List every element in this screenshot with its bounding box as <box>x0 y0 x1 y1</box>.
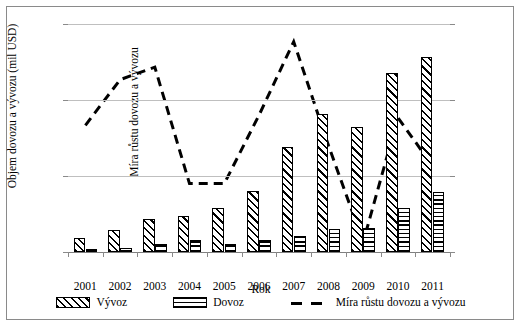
bar-import <box>225 244 237 252</box>
y-axis-right-tick <box>450 24 455 25</box>
legend-item-export: Vývoz <box>56 296 127 308</box>
bar-import <box>363 228 375 252</box>
chart-legend: Vývoz Dovoz Míra růstu dovozu a vývozu <box>0 296 522 308</box>
x-axis-tick <box>381 252 382 257</box>
x-axis-tick <box>276 252 277 257</box>
y-axis-left-tick <box>63 100 68 101</box>
bar-import <box>86 249 98 252</box>
bar-import <box>259 240 271 252</box>
plot-area: 0300060009000-10%0%10%20%30%40%50%60%70%… <box>68 24 450 252</box>
x-axis-tick <box>103 252 104 257</box>
legend-item-growth-rate: Míra růstu dovozu a vývozu <box>290 296 466 308</box>
y-axis-left-tick <box>63 24 68 25</box>
legend-label-import: Dovoz <box>213 296 244 308</box>
bar-export <box>351 127 363 252</box>
bar-export <box>386 73 398 252</box>
bar-export <box>282 147 294 252</box>
x-axis-tick <box>450 252 451 257</box>
x-axis-tick-label: 2011 <box>413 280 453 292</box>
x-axis-tick <box>207 252 208 257</box>
bar-export <box>108 230 120 252</box>
bar-export <box>317 114 329 252</box>
x-axis-tick <box>172 252 173 257</box>
x-axis-tick <box>137 252 138 257</box>
bar-export <box>421 57 433 252</box>
x-axis-tick <box>346 252 347 257</box>
bar-import <box>433 192 445 252</box>
bar-export <box>178 216 190 252</box>
chart-figure: Objem dovozu a vývozu (mil USD) Míra růs… <box>0 0 522 326</box>
bar-import <box>190 240 202 252</box>
legend-label-export: Vývoz <box>96 296 127 308</box>
y-axis-right-tick <box>450 176 455 177</box>
horizontal-hatch-swatch-icon <box>173 297 207 308</box>
y-axis-right-tick <box>450 100 455 101</box>
x-axis-tick <box>311 252 312 257</box>
diagonal-hatch-swatch-icon <box>56 297 90 308</box>
bar-export <box>143 219 155 252</box>
legend-item-import: Dovoz <box>173 296 244 308</box>
bar-import <box>155 244 167 252</box>
x-axis-tick <box>68 252 69 257</box>
y-axis-left-title: Objem dovozu a vývozu (mil USD) <box>6 0 18 222</box>
bar-import <box>329 229 341 252</box>
x-axis-tick <box>242 252 243 257</box>
bar-export <box>74 238 86 252</box>
bar-import <box>120 248 132 252</box>
y-axis-left-tick <box>63 176 68 177</box>
legend-label-growth-rate: Míra růstu dovozu a vývozu <box>336 296 466 308</box>
bar-export <box>247 191 259 252</box>
x-axis-tick <box>415 252 416 257</box>
bar-import <box>294 236 306 252</box>
dashed-line-swatch-icon <box>290 297 330 308</box>
bar-export <box>212 208 224 252</box>
bar-import <box>398 208 410 252</box>
x-axis-line <box>68 252 450 253</box>
gridline <box>68 24 450 25</box>
growth-rate-line <box>85 42 432 242</box>
